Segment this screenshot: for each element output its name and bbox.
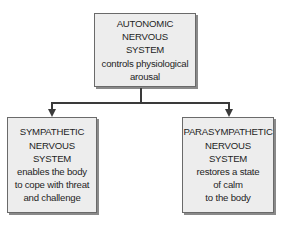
sympathetic-title-line-3: SYSTEM	[33, 152, 71, 165]
arrow-down-icon-right	[225, 109, 233, 117]
parasympathetic-desc-line-1: restores a state	[197, 165, 260, 178]
sympathetic-desc-line-1: enables the body	[17, 165, 87, 178]
parasympathetic-title-line-2: NERVOUS	[205, 139, 251, 152]
root-title-line-2: NERVOUS	[122, 30, 168, 43]
root-title-line-3: SYSTEM	[126, 43, 164, 56]
sympathetic-title-line-2: NERVOUS	[29, 139, 75, 152]
parasympathetic-title-line-1: PARASYMPATHETIC	[183, 125, 272, 138]
sympathetic-nervous-system-box: SYMPATHETIC NERVOUS SYSTEM enables the b…	[7, 117, 97, 213]
connector-horizontal-bar	[51, 102, 230, 104]
autonomic-nervous-system-box: AUTONOMIC NERVOUS SYSTEM controls physio…	[94, 13, 196, 87]
root-desc-line-2: arousal	[130, 70, 160, 83]
parasympathetic-title-line-3: SYSTEM	[209, 152, 247, 165]
parasympathetic-desc-line-2: of calm	[213, 178, 243, 191]
sympathetic-desc-line-2: to cope with threat	[15, 178, 90, 191]
root-title-line-1: AUTONOMIC	[117, 17, 174, 30]
root-desc-line-1: controls physiological	[102, 57, 189, 70]
parasympathetic-desc-line-3: to the body	[205, 191, 250, 204]
arrow-down-icon-left	[48, 109, 56, 117]
sympathetic-title-line-1: SYMPATHETIC	[20, 125, 85, 138]
parasympathetic-nervous-system-box: PARASYMPATHETIC NERVOUS SYSTEM restores …	[182, 117, 274, 213]
connector-root-stem	[140, 88, 142, 103]
sympathetic-desc-line-3: and challenge	[23, 191, 80, 204]
